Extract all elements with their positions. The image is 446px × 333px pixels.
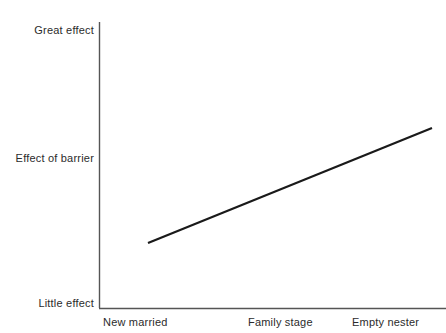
chart-figure: Great effect Effect of barrier Little ef… — [0, 0, 446, 333]
y-axis-bottom-label: Little effect — [38, 297, 94, 309]
y-axis-top-label: Great effect — [34, 24, 94, 36]
chart-plot-area — [0, 0, 446, 333]
x-axis-right-label: Empty nester — [352, 316, 419, 328]
x-axis-title: Family stage — [248, 316, 313, 328]
x-axis-left-label: New married — [103, 316, 168, 328]
trend-line — [148, 128, 432, 243]
y-axis-title: Effect of barrier — [16, 152, 94, 164]
